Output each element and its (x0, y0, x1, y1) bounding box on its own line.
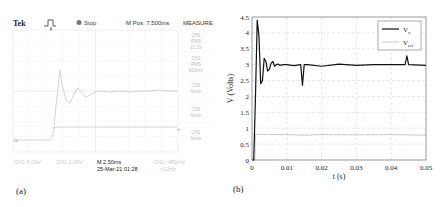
panel-label-b: (b) (233, 184, 244, 194)
y-tick-label: 0 (246, 157, 250, 165)
x-tick-label: 0.04 (385, 164, 398, 172)
measure-item[interactable]: CH1 None (191, 83, 202, 94)
y-tick-label: 3.5 (240, 45, 249, 53)
measure-type: None (191, 136, 202, 141)
measure-item[interactable]: CH1 None (191, 130, 202, 141)
ch1-scale: CH1 5.00V (14, 159, 41, 165)
x-tick-label: 0.03 (350, 164, 363, 172)
measure-value: 920mV (189, 68, 203, 73)
timebase: M 2.50ms (97, 159, 121, 165)
x-tick-label: 0.02 (315, 164, 328, 172)
chart-legend: VoVref (378, 21, 421, 50)
measure-ch: CH1 (191, 130, 200, 135)
y-tick-label: 4 (246, 29, 250, 37)
freq-readout: <10Hz (160, 166, 176, 172)
y-tick-label: 4.5 (240, 14, 249, 22)
datetime: 25-Mar-21 01:28 (97, 166, 138, 172)
ch1-marker: 1▸ (13, 137, 19, 143)
y-axis-label: V (Volts) (226, 74, 235, 104)
scope-brand: Tek (13, 19, 26, 28)
x-tick-label: 0.05 (420, 164, 433, 172)
y-tick-label: 3 (246, 61, 250, 69)
ch2-scale: CH2 1.00V (56, 159, 83, 165)
measure-ch: CH1 (191, 107, 200, 112)
y-tick-label: 1 (246, 125, 250, 133)
measure-value: 11.1V (190, 45, 201, 50)
scope-status: Stop (84, 20, 97, 26)
legend-box (378, 21, 421, 50)
voltage-response-chart: 00.010.020.030.040.0500.511.522.533.544.… (223, 0, 446, 207)
measure-type: None (191, 113, 202, 118)
y-tick-label: 2 (246, 93, 250, 101)
scope-background (0, 0, 223, 207)
panel-label-a: (a) (16, 186, 26, 196)
measure-ch: CH2 (191, 56, 200, 61)
y-tick-label: 2.5 (240, 77, 249, 85)
trigger-readout: CH2 ∕ 480mV (153, 159, 186, 165)
measure-ch: CH1 (191, 83, 200, 88)
x-axis-label: t (s) (333, 172, 346, 181)
y-tick-label: 0.5 (240, 141, 249, 149)
y-tick-label: 1.5 (240, 109, 249, 117)
measure-item[interactable]: CH1 RMS 11.1V (190, 33, 201, 50)
measure-type: RMS (191, 62, 201, 67)
measure-type: RMS (191, 39, 201, 44)
stop-dot-icon (77, 20, 82, 25)
measure-ch: CH1 (191, 33, 200, 38)
x-tick-label: 0.01 (281, 164, 294, 172)
measure-title: MEASURE (183, 20, 213, 26)
scope-m-pos: M Pos: 7.500ms (126, 20, 169, 26)
measure-type: None (191, 89, 202, 94)
ch2-marker: ◂ (177, 126, 180, 132)
oscilloscope-screenshot: Tek Stop M Pos: 7.500ms MEASURE CH1 RMS … (0, 0, 223, 207)
x-tick-label: 0 (250, 164, 254, 172)
measure-item[interactable]: CH1 None (191, 107, 202, 118)
